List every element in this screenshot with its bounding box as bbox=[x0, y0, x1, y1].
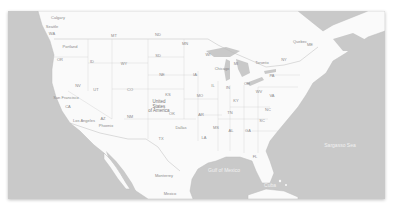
state-label-me: ME bbox=[307, 43, 313, 47]
place-label: Seattle bbox=[46, 25, 58, 29]
state-label-mn: MN bbox=[182, 42, 188, 46]
state-label-co: CO bbox=[127, 88, 133, 92]
water-label: Cuba bbox=[264, 183, 276, 187]
state-label-tn: TN bbox=[227, 111, 232, 115]
state-label-wy: WY bbox=[121, 62, 127, 66]
state-label-wa: WA bbox=[49, 32, 55, 36]
state-label-az: AZ bbox=[100, 117, 105, 121]
land-cuba bbox=[248, 189, 298, 199]
state-label-ne: NE bbox=[159, 73, 165, 77]
state-label-ky: KY bbox=[233, 99, 238, 103]
state-label-ar: AR bbox=[198, 113, 204, 117]
state-label-la: LA bbox=[202, 136, 207, 140]
state-label-ok: OK bbox=[169, 112, 175, 116]
state-label-ks: KS bbox=[165, 93, 170, 97]
state-label-nc: NC bbox=[265, 108, 271, 112]
place-label: San Francisco bbox=[53, 96, 79, 100]
water-label: Gulf of Mexico bbox=[208, 168, 240, 172]
state-label-in: IN bbox=[226, 86, 230, 90]
state-label-al: AL bbox=[229, 129, 234, 133]
state-label-nd: ND bbox=[155, 33, 161, 37]
state-label-ny: NY bbox=[281, 58, 287, 62]
state-label-mi: MI bbox=[234, 62, 238, 66]
state-label-nm: NM bbox=[127, 115, 133, 119]
state-label-id: ID bbox=[90, 60, 94, 64]
state-label-ms: MS bbox=[213, 126, 219, 130]
state-label-mo: MO bbox=[197, 94, 203, 98]
state-label-pa: PA bbox=[269, 74, 274, 78]
place-label: Calgary bbox=[51, 16, 65, 20]
place-label: Mexico bbox=[164, 192, 177, 196]
place-label: Chicago bbox=[215, 67, 230, 71]
place-label: Quebec bbox=[293, 40, 307, 44]
country-label-usa: United States of America bbox=[148, 100, 169, 114]
state-label-mt: MT bbox=[111, 34, 117, 38]
state-label-il: IL bbox=[211, 84, 214, 88]
state-label-tx: TX bbox=[158, 137, 163, 141]
water-label: Sargasso Sea bbox=[324, 143, 355, 147]
state-label-sc: SC bbox=[259, 119, 265, 123]
place-label: Dallas bbox=[175, 126, 186, 130]
state-label-ia: IA bbox=[193, 73, 197, 77]
land-bahamas bbox=[279, 180, 281, 182]
state-label-fl: FL bbox=[253, 155, 258, 159]
state-label-or: OR bbox=[57, 58, 63, 62]
place-label: Toronto bbox=[255, 61, 268, 65]
state-label-nv: NV bbox=[75, 84, 81, 88]
state-label-sd: SD bbox=[155, 54, 161, 58]
place-label: Los Angeles bbox=[73, 119, 95, 123]
state-label-ga: GA bbox=[245, 129, 251, 133]
state-label-ut: UT bbox=[93, 88, 98, 92]
state-label-wv: WV bbox=[256, 90, 262, 94]
state-label-ca: CA bbox=[65, 105, 71, 109]
state-label-oh: OH bbox=[244, 82, 250, 86]
state-label-va: VA bbox=[269, 94, 274, 98]
place-label: Monterrey bbox=[155, 174, 173, 178]
map-view[interactable]: United States of America WAORCANVIDMTWYU… bbox=[8, 11, 385, 199]
state-label-wi: WI bbox=[206, 53, 211, 57]
place-label: Phoenix bbox=[99, 124, 113, 128]
place-label: Portland bbox=[63, 45, 78, 49]
